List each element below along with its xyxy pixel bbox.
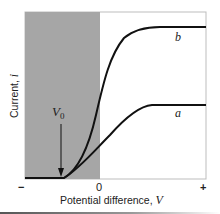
curve-a-label: a	[175, 106, 181, 120]
bottom-rule	[0, 212, 220, 214]
shaded-negative-region	[25, 12, 100, 179]
x-tick-minus: −	[18, 181, 24, 193]
x-axis-label: Potential difference, V	[60, 193, 165, 207]
photoelectric-chart: V0 b a − 0 + Potential difference, V Cur…	[0, 0, 220, 214]
y-axis-label: Current, i	[7, 74, 21, 118]
x-tick-plus: +	[200, 181, 206, 193]
curve-b-label: b	[175, 30, 181, 44]
x-tick-zero: 0	[96, 181, 102, 193]
